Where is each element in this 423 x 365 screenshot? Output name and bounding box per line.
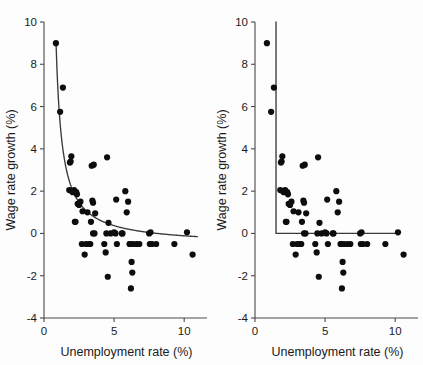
y-tick-label: 10 [24, 16, 37, 28]
data-point [79, 241, 85, 247]
data-point [299, 219, 305, 225]
data-point [77, 199, 83, 205]
data-point [103, 230, 109, 236]
data-point [103, 249, 109, 255]
data-point [312, 241, 318, 247]
x-tick-label: 5 [322, 325, 328, 337]
data-point [268, 109, 274, 115]
data-point [358, 229, 364, 235]
data-point [279, 153, 285, 159]
data-point [147, 229, 153, 235]
data-point [114, 241, 120, 247]
data-point [105, 274, 111, 280]
data-point [105, 220, 111, 226]
y-axis-label: Wage rate growth (%) [4, 109, 18, 230]
scatter-series [264, 40, 407, 291]
data-point [336, 199, 342, 205]
data-point [84, 209, 90, 215]
data-point [340, 259, 346, 265]
y-tick-label: 8 [31, 58, 37, 70]
data-point [113, 197, 119, 203]
y-tick-label: 4 [31, 143, 38, 155]
data-point [119, 230, 125, 236]
data-point [333, 188, 339, 194]
data-point [279, 158, 285, 164]
data-point [314, 230, 320, 236]
x-tick-label: 0 [41, 325, 47, 337]
data-point [330, 230, 336, 236]
data-point [184, 229, 190, 235]
data-point [91, 230, 97, 236]
data-point [53, 40, 59, 46]
y-tick-label: -2 [238, 270, 248, 282]
y-tick-label: -4 [238, 312, 249, 324]
data-point [290, 241, 296, 247]
data-point [400, 251, 406, 257]
x-axis-label: Unemployment rate (%) [272, 345, 404, 359]
data-point [104, 154, 110, 160]
data-point [112, 230, 118, 236]
data-point [382, 241, 388, 247]
x-axis-label: Unemployment rate (%) [61, 345, 193, 359]
scatter-series [53, 40, 196, 291]
y-tick-label: 10 [235, 16, 248, 28]
data-point [90, 200, 96, 206]
data-point [283, 219, 289, 225]
data-point [395, 229, 401, 235]
data-point [325, 241, 331, 247]
y-tick-label: 2 [242, 185, 248, 197]
data-point [71, 187, 77, 193]
axis-spine [44, 22, 207, 318]
data-point [60, 84, 66, 90]
data-point [92, 210, 98, 216]
data-point [153, 241, 159, 247]
x-tick-label: 0 [252, 325, 258, 337]
data-point [323, 230, 329, 236]
x-tick-label: 5 [111, 325, 117, 337]
y-tick-label: -2 [27, 270, 37, 282]
data-point [315, 154, 321, 160]
data-point [295, 209, 301, 215]
data-point [91, 162, 97, 168]
data-point [288, 199, 294, 205]
data-point [129, 269, 135, 275]
data-point [340, 269, 346, 275]
data-point [324, 197, 330, 203]
data-point [189, 251, 195, 257]
figure-container: -4-202468100510Unemployment rate (%)Wage… [0, 0, 423, 365]
data-point [122, 188, 128, 194]
axis-spine [255, 22, 418, 318]
data-point [302, 162, 308, 168]
y-tick-label: -4 [27, 312, 38, 324]
data-point [136, 241, 142, 247]
data-point [68, 153, 74, 159]
data-point [316, 274, 322, 280]
x-tick-label: 10 [389, 325, 402, 337]
x-tick-label: 10 [178, 325, 191, 337]
data-point [335, 209, 341, 215]
data-point [88, 219, 94, 225]
y-axis-label: Wage rate growth (%) [215, 109, 229, 230]
y-tick-label: 2 [31, 185, 37, 197]
y-tick-label: 0 [31, 227, 37, 239]
data-point [147, 241, 153, 247]
data-point [303, 210, 309, 216]
data-point [125, 199, 131, 205]
y-tick-label: 4 [242, 143, 249, 155]
data-point [264, 40, 270, 46]
data-point [358, 241, 364, 247]
data-point [68, 158, 74, 164]
data-point [171, 241, 177, 247]
y-tick-label: 6 [242, 101, 248, 113]
chart-panel-left: -4-202468100510Unemployment rate (%)Wage… [0, 0, 211, 365]
data-point [72, 219, 78, 225]
data-point [124, 209, 130, 215]
fitted-curve [56, 43, 197, 236]
data-point [57, 109, 63, 115]
y-tick-label: 0 [242, 227, 248, 239]
data-point [364, 241, 370, 247]
data-point [347, 241, 353, 247]
chart-panel-right: -4-202468100510Unemployment rate (%)Wage… [211, 0, 422, 365]
data-point [128, 285, 134, 291]
data-point [316, 220, 322, 226]
